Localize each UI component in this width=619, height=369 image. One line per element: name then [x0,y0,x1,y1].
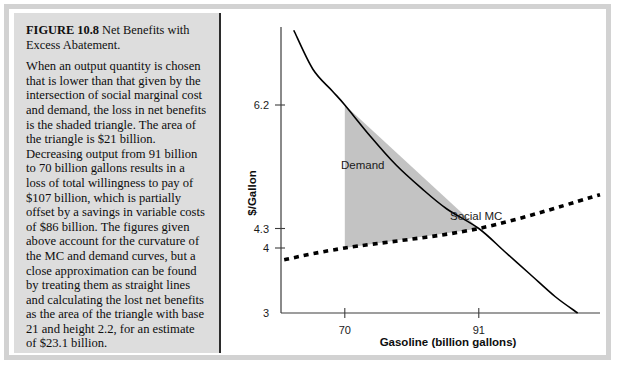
y-axis-title: $/Gallon [246,170,258,215]
x-tick-label: 70 [339,324,351,336]
caption-divider-rule [219,13,221,353]
x-axis-title: Gasoline (billion gallons) [380,336,517,348]
social-mc-curve-label: Social MC [450,210,502,222]
figure-10-8: FIGURE 10.8 Net Benefits with Excess Aba… [0,0,619,369]
y-tick-label: 6.2 [254,99,269,111]
demand-curve-label: Demand [341,159,384,171]
deadweight-loss-triangle [345,105,479,248]
chart-panel: 6.24.343 7091 Demand Social MC $/Gallon … [224,13,605,353]
demand-curve [294,30,578,313]
x-tick-label: 91 [473,324,485,336]
y-tick-label: 4 [263,242,269,254]
y-tick-label: 4.3 [254,223,269,235]
figure-caption-text: When an output quantity is chosen that i… [26,59,207,351]
figure-number: FIGURE 10.8 [26,23,99,37]
figure-title: FIGURE 10.8 Net Benefits with Excess Aba… [26,23,207,52]
chart-svg: 6.24.343 7091 Demand Social MC $/Gallon … [224,13,605,353]
x-axis-ticks: 7091 [339,308,485,336]
figure-caption-panel: FIGURE 10.8 Net Benefits with Excess Aba… [14,13,219,353]
y-tick-label: 3 [263,307,269,319]
y-axis-ticks: 6.24.343 [254,99,285,319]
